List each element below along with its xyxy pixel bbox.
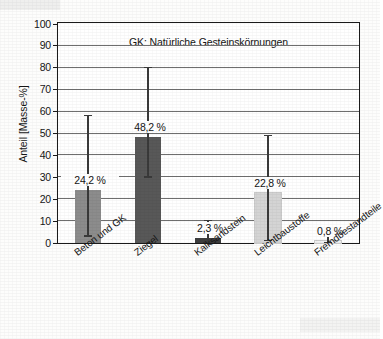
- y-axis-tick-label: 40: [40, 150, 51, 160]
- bar-value-label-1: 24,2 %: [61, 174, 119, 186]
- error-bar-cap-lower-2: [144, 176, 152, 177]
- y-axis-tick-label: 70: [40, 84, 51, 94]
- y-axis-tick-label: 50: [40, 128, 51, 138]
- y-axis: Anteil [Masse-%] 0102030405060708090100: [0, 0, 57, 339]
- plot-area: GK: Natürliche Gesteinskörnungen 24,2 %4…: [57, 22, 360, 244]
- y-axis-tick-label: 100: [34, 19, 51, 29]
- bar-value-label-4: 22,8 %: [241, 177, 299, 189]
- y-axis-tick-label: 10: [40, 216, 51, 226]
- scan-smudge-top-left: [0, 0, 60, 10]
- gridline: [58, 45, 359, 46]
- gridline: [58, 89, 359, 90]
- bar-value-label-2: 48,2 %: [121, 121, 179, 133]
- y-axis-tick-label: 30: [40, 172, 51, 182]
- gridline: [58, 154, 359, 155]
- gridline: [58, 133, 359, 134]
- error-bar-cap-upper-1: [84, 115, 92, 116]
- y-axis-title: Anteil [Masse-%]: [17, 54, 29, 194]
- gridline: [58, 198, 359, 199]
- error-bar-cap-upper-4: [264, 135, 272, 136]
- y-axis-tick-label: 0: [45, 238, 51, 248]
- y-axis-tick-label: 60: [40, 106, 51, 116]
- gridline: [58, 111, 359, 112]
- y-axis-tick-label: 20: [40, 194, 51, 204]
- gridline: [58, 67, 359, 68]
- y-axis-tick-label: 80: [40, 62, 51, 72]
- scan-smudge-bottom-right: [300, 318, 380, 332]
- chart-title: GK: Natürliche Gesteinskörnungen: [58, 35, 359, 49]
- y-axis-tick-label: 90: [40, 40, 51, 50]
- error-bar-cap-upper-2: [144, 67, 152, 68]
